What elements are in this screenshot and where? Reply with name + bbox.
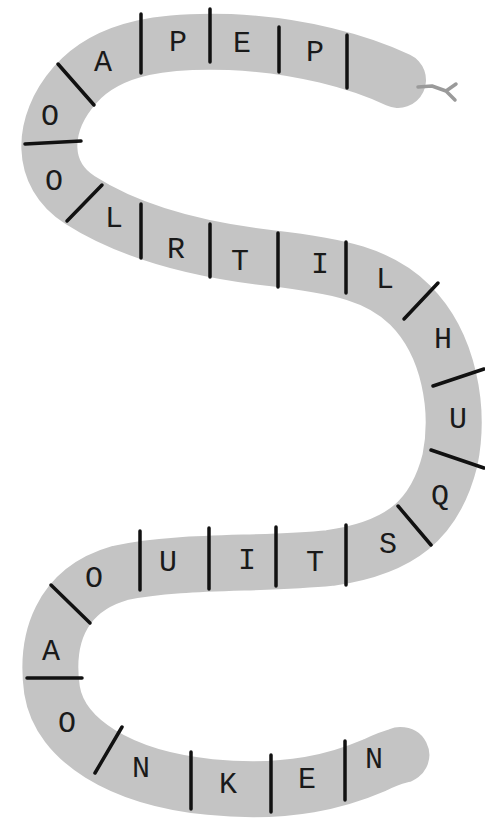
letter-cell: T (231, 245, 249, 279)
letter-cell: L (105, 202, 123, 236)
snake-puzzle-board: PEPAOOLRTILHUQSTIUOAONKEN (0, 0, 485, 820)
letter-cell: P (169, 26, 187, 60)
letter-segments: PEPAOOLRTILHUQSTIUOAONKEN (41, 26, 467, 802)
letter-cell: U (449, 403, 467, 437)
letter-cell: I (238, 544, 256, 578)
tongue-icon (418, 84, 456, 100)
letter-cell: P (306, 36, 324, 70)
letter-cell: I (311, 248, 329, 282)
letter-cell: N (365, 743, 383, 777)
letter-cell: K (219, 768, 237, 802)
letter-cell: O (41, 100, 59, 134)
snake-body (49, 42, 453, 790)
letter-cell: O (45, 165, 63, 199)
snake-tongue (418, 84, 456, 100)
letter-cell: Q (431, 480, 449, 514)
letter-cell: O (85, 562, 103, 596)
letter-cell: U (159, 546, 177, 580)
letter-cell: R (167, 233, 185, 267)
letter-cell: A (94, 46, 112, 80)
letter-cell: N (132, 752, 150, 786)
letter-cell: T (306, 546, 324, 580)
segment-dividers (25, 9, 484, 812)
letter-cell: E (233, 27, 251, 61)
letter-cell: H (434, 323, 452, 357)
letter-cell: S (379, 528, 397, 562)
letter-cell: A (42, 635, 60, 669)
letter-cell: L (376, 263, 394, 297)
letter-cell: E (298, 763, 316, 797)
letter-cell: O (58, 707, 76, 741)
snake-body-shape (49, 42, 453, 790)
